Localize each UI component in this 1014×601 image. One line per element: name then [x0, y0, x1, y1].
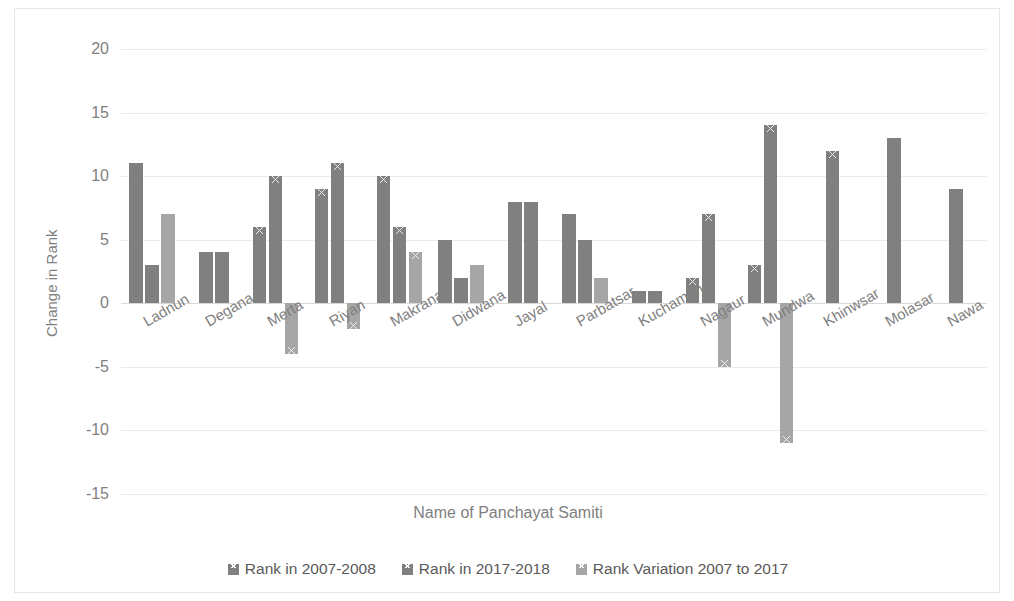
bar-cap-notch: [393, 227, 407, 234]
bar: [331, 163, 345, 303]
bar-cap-notch: [748, 265, 762, 272]
bar-cap-notch: [161, 214, 175, 221]
bar: [524, 202, 538, 304]
bar-cap-notch: [470, 265, 484, 272]
y-axis-tick-label: -15: [86, 485, 109, 503]
gridline: [121, 176, 987, 177]
bar-cap-notch: [578, 240, 592, 247]
y-axis-tick-label: -10: [86, 421, 109, 439]
bar: [748, 265, 762, 303]
bar: [199, 252, 213, 303]
legend-label: Rank Variation 2007 to 2017: [593, 560, 788, 578]
bar: [764, 125, 778, 303]
bar-cap-notch: [648, 291, 662, 298]
bar: [269, 176, 283, 303]
bar-cap-notch: [887, 138, 901, 145]
bar: [315, 189, 329, 303]
legend-item[interactable]: Rank Variation 2007 to 2017: [576, 560, 788, 578]
bar: [129, 163, 143, 303]
chart-container: 20151050-5-10-15 Change in Rank Name of …: [14, 8, 1000, 593]
plot-area: [121, 49, 987, 494]
bar-cap-notch: [594, 278, 608, 285]
y-axis-tick-label: 5: [100, 231, 109, 249]
bar: [562, 214, 576, 303]
gridline: [121, 49, 987, 50]
bar-cap-notch: [562, 214, 576, 221]
y-axis-tick-label: 15: [91, 104, 109, 122]
bar: [578, 240, 592, 304]
gridline: [121, 494, 987, 495]
bar-cap-notch: [199, 252, 213, 259]
legend-label: Rank in 2017-2018: [419, 560, 550, 578]
bar: [161, 214, 175, 303]
bar-cap-notch: [826, 151, 840, 158]
bar-cap-notch: [780, 436, 794, 443]
y-axis-tick-label: 10: [91, 167, 109, 185]
bar: [393, 227, 407, 303]
bar: [145, 265, 159, 303]
gridline: [121, 113, 987, 114]
bar: [454, 278, 468, 303]
bar-cap-notch: [508, 202, 522, 209]
gridline: [121, 430, 987, 431]
legend-item[interactable]: Rank in 2017-2018: [402, 560, 550, 578]
bar-cap-notch: [718, 360, 732, 367]
legend-swatch-icon: [402, 564, 413, 575]
legend-swatch-icon: [576, 564, 587, 575]
y-axis-tick-label: 0: [100, 294, 109, 312]
bar-cap-notch: [269, 176, 283, 183]
bar-cap-notch: [347, 322, 361, 329]
y-axis-tick-label: -5: [95, 358, 109, 376]
bar-cap-notch: [315, 189, 329, 196]
y-axis-tick-label: 20: [91, 40, 109, 58]
bar-cap-notch: [285, 347, 299, 354]
bar-cap-notch: [377, 176, 391, 183]
bar: [215, 252, 229, 303]
bar-cap-notch: [454, 278, 468, 285]
bar-cap-notch: [129, 163, 143, 170]
bar-cap-notch: [764, 125, 778, 132]
bar-cap-notch: [331, 163, 345, 170]
bar-cap-notch: [253, 227, 267, 234]
bar-cap-notch: [409, 252, 423, 259]
bar: [826, 151, 840, 304]
legend-swatch-icon: [228, 564, 239, 575]
chart-legend: Rank in 2007-2008Rank in 2017-2018Rank V…: [15, 560, 1001, 578]
legend-label: Rank in 2007-2008: [245, 560, 376, 578]
bar-cap-notch: [215, 252, 229, 259]
gridline: [121, 240, 987, 241]
bar-cap-notch: [949, 189, 963, 196]
bar: [780, 303, 794, 443]
bar-cap-notch: [145, 265, 159, 272]
bar-cap-notch: [702, 214, 716, 221]
y-axis-title: Change in Rank: [43, 229, 60, 337]
legend-item[interactable]: Rank in 2007-2008: [228, 560, 376, 578]
bar-cap-notch: [524, 202, 538, 209]
bar: [253, 227, 267, 303]
bar: [508, 202, 522, 304]
gridline: [121, 367, 987, 368]
bar-cap-notch: [438, 240, 452, 247]
x-axis-title: Name of Panchayat Samiti: [15, 504, 1001, 522]
bar: [887, 138, 901, 303]
bar: [949, 189, 963, 303]
bar: [377, 176, 391, 303]
